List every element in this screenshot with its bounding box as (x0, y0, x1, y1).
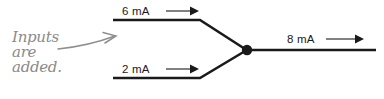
arrow-head-icon (190, 65, 199, 74)
circuit-diagram: 6 mA 2 mA 8 mA Inputs are added. (0, 0, 384, 99)
annotation-line-3: added. (12, 58, 62, 76)
label-input-top: 6 mA (122, 5, 150, 17)
current-arrow-bottom (166, 65, 199, 74)
wire-input-top (113, 20, 244, 48)
arrow-head-icon (355, 35, 364, 44)
label-output: 8 mA (287, 33, 315, 45)
current-arrow-top (166, 7, 199, 16)
diagram-canvas: 6 mA 2 mA 8 mA Inputs are added. (0, 0, 384, 99)
summing-node-dot (242, 45, 252, 55)
current-arrow-output (326, 35, 364, 44)
arrow-head-icon (190, 7, 199, 16)
handwritten-annotation: Inputs are added. (11, 28, 62, 76)
label-input-bottom: 2 mA (122, 63, 150, 75)
annotation-pointer-arrow (58, 33, 116, 50)
